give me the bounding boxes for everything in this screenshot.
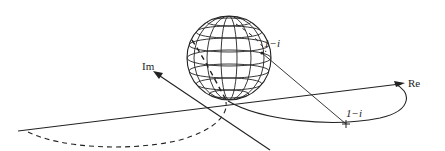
- im-axis-label: Im: [142, 60, 155, 72]
- re-axis-label: Re: [408, 77, 420, 89]
- riemann-sphere-diagram: Re Im 1−i 1−i: [0, 0, 445, 151]
- projection-line: [262, 53, 346, 124]
- sphere-point-label: 1−i: [264, 37, 280, 49]
- imaginary-axis-arrow-icon: [153, 71, 163, 79]
- sphere-point-marker: [260, 51, 263, 54]
- plane-point-label: 1−i: [346, 107, 362, 119]
- sphere: [187, 16, 271, 100]
